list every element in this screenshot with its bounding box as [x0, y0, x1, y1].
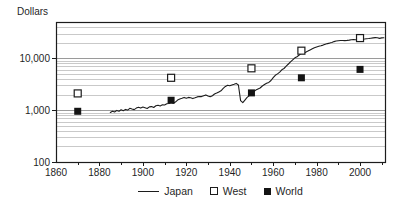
legend-label-japan: Japan: [164, 185, 193, 197]
plot-area: 186018801900192019401960198020001001,000…: [0, 0, 402, 207]
legend-label-west: West: [223, 185, 247, 197]
y-tick-label: 1,000: [25, 105, 50, 116]
x-tick-label: 1920: [175, 167, 198, 178]
japan-line-swatch-icon: [138, 191, 159, 192]
legend-item-world: World: [264, 185, 303, 197]
world-filled-square-icon: [264, 188, 271, 195]
x-tick-label: 1860: [45, 167, 68, 178]
legend-item-west: West: [210, 185, 247, 197]
x-tick-label: 1980: [305, 167, 328, 178]
west-marker: [74, 90, 81, 97]
x-tick-label: 1960: [262, 167, 285, 178]
y-tick-label: 10,000: [19, 53, 50, 64]
world-marker: [248, 89, 255, 96]
chart-figure: Dollars 18601880190019201940196019802000…: [0, 0, 402, 207]
x-tick-label: 1940: [219, 167, 242, 178]
world-marker: [357, 66, 364, 73]
world-marker: [74, 108, 81, 115]
japan-line: [110, 38, 384, 113]
y-tick-label: 100: [33, 157, 50, 168]
x-tick-label: 1900: [132, 167, 155, 178]
x-tick-label: 2000: [349, 167, 372, 178]
west-open-square-icon: [210, 187, 218, 195]
west-marker: [357, 35, 364, 42]
x-tick-label: 1880: [88, 167, 111, 178]
world-marker: [298, 74, 305, 81]
legend-label-world: World: [276, 185, 303, 197]
legend: Japan West World: [56, 184, 385, 198]
world-marker: [168, 97, 175, 104]
west-marker: [298, 47, 305, 54]
west-marker: [168, 74, 175, 81]
legend-item-japan: Japan: [138, 185, 193, 197]
west-marker: [248, 65, 255, 72]
